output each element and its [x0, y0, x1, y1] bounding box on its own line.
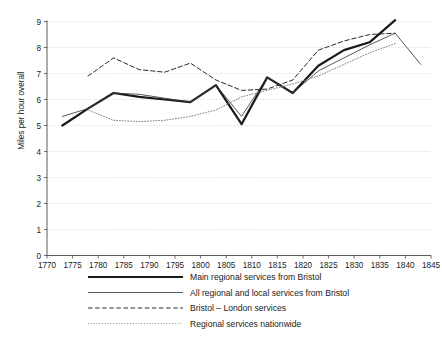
- x-tick-label-1810: 1810: [243, 261, 262, 270]
- x-tick-label-1790: 1790: [140, 261, 159, 270]
- y-tick-label-3: 3: [36, 174, 41, 183]
- x-tick-label-1840: 1840: [396, 261, 415, 270]
- x-tick-label-1845: 1845: [422, 261, 441, 270]
- y-tick-label-8: 8: [36, 44, 41, 53]
- series-line-0: [62, 20, 395, 125]
- y-tick-label-9: 9: [36, 18, 41, 27]
- gridlines-group: [47, 22, 431, 230]
- legend-label-0: Main regional services from Bristol: [190, 272, 321, 282]
- axes-group: [44, 21, 431, 259]
- legend-label-2: Bristol – London services: [190, 303, 286, 313]
- legend-group: Main regional services from BristolAll r…: [88, 272, 349, 329]
- line-chart-figure: Miles per hour overall 17701775178017851…: [0, 0, 442, 343]
- x-tick-label-1780: 1780: [89, 261, 108, 270]
- x-tick-label-1825: 1825: [319, 261, 338, 270]
- x-tick-label-1785: 1785: [115, 261, 134, 270]
- y-tick-label-1: 1: [36, 226, 41, 235]
- x-tick-label-1775: 1775: [63, 261, 82, 270]
- y-tick-label-4: 4: [36, 148, 41, 157]
- data-series-group: [62, 20, 420, 125]
- y-tick-label-2: 2: [36, 200, 41, 209]
- y-tick-labels-group: 0123456789: [36, 18, 41, 261]
- y-axis-title: Miles per hour overall: [17, 71, 26, 149]
- x-tick-label-1835: 1835: [371, 261, 390, 270]
- y-tick-label-0: 0: [36, 252, 41, 261]
- y-tick-label-6: 6: [36, 96, 41, 105]
- x-tick-labels-group: 1770177517801785179017951800180518101815…: [38, 261, 441, 270]
- x-tick-label-1795: 1795: [166, 261, 185, 270]
- x-tick-label-1800: 1800: [191, 261, 210, 270]
- x-tick-label-1830: 1830: [345, 261, 364, 270]
- x-tick-label-1815: 1815: [268, 261, 287, 270]
- y-axis-title-group: Miles per hour overall: [17, 71, 26, 149]
- y-tick-label-7: 7: [36, 70, 41, 79]
- series-line-2: [88, 33, 395, 90]
- x-tick-label-1770: 1770: [38, 261, 57, 270]
- legend-label-3: Regional services nationwide: [190, 319, 302, 329]
- series-line-1: [62, 33, 420, 116]
- y-tick-label-5: 5: [36, 122, 41, 131]
- chart-canvas: Miles per hour overall 17701775178017851…: [0, 0, 442, 343]
- x-tick-label-1805: 1805: [217, 261, 236, 270]
- legend-label-1: All regional and local services from Bri…: [190, 288, 349, 298]
- x-tick-label-1820: 1820: [294, 261, 313, 270]
